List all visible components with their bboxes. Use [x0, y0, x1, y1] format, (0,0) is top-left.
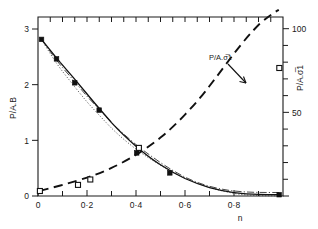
- markers-measured: [39, 37, 281, 197]
- x-tick-label: 0·4: [130, 200, 143, 210]
- curve-theory-a: [42, 40, 280, 193]
- curve-theory-b: [42, 40, 280, 196]
- y-left-tick-label: 3: [24, 24, 29, 34]
- y-right-axis-title: P/A.σ̅1: [295, 65, 305, 91]
- x-tick-label: 0: [36, 200, 41, 210]
- y-right-tick-label: 100: [292, 24, 306, 34]
- y-left-tick-labels: 0 1 2 3: [24, 24, 29, 201]
- y-left-axis-title: P/A.B: [8, 97, 18, 119]
- left-axis-ticks: [32, 29, 38, 196]
- figure-container: 0 0·2 0·4 0·6 0·8 0 1 2 3 50 100 n P/A.B…: [0, 0, 318, 229]
- y-left-tick-label: 2: [24, 80, 29, 90]
- x-axis-title: n: [238, 213, 243, 223]
- y-left-tick-label: 0: [24, 191, 29, 201]
- right-axis-ticks: [283, 29, 289, 196]
- chart-canvas: 0 0·2 0·4 0·6 0·8 0 1 2 3 50 100 n P/A.B…: [0, 0, 318, 229]
- sigma1-annotation-label: P/A.σ̅1: [209, 53, 232, 62]
- y-left-tick-label: 1: [24, 136, 29, 146]
- x-tick-label: 0·2: [81, 200, 94, 210]
- y-right-tick-label: 50: [292, 108, 302, 118]
- x-tick-label: 0·6: [179, 200, 192, 210]
- annotation-arrow: [228, 64, 246, 83]
- x-tick-labels: 0 0·2 0·4 0·6 0·8: [36, 200, 241, 210]
- x-tick-label: 0·8: [228, 200, 241, 210]
- top-axis-ticks: [50, 17, 271, 22]
- plot-frame: [38, 17, 283, 196]
- curve-measured: [42, 40, 280, 195]
